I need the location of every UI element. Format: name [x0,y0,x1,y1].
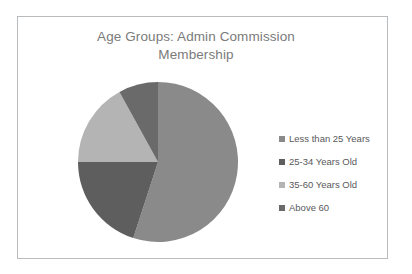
square-swatch-icon [279,182,285,188]
pie-chart [77,80,239,244]
square-swatch-icon [279,159,285,165]
legend-item-above-60[interactable]: Above 60 [279,196,389,219]
legend-item-label: Above 60 [289,202,329,213]
legend-item-25-34[interactable]: 25-34 Years Old [279,150,389,173]
legend-item-35-60[interactable]: 35-60 Years Old [279,173,389,196]
chart-legend: Less than 25 Years 25-34 Years Old 35-60… [279,127,389,219]
chart-title-line-2: Membership [46,46,346,64]
pie-slice-group [78,82,238,242]
square-swatch-icon [279,136,285,142]
legend-item-label: 25-34 Years Old [289,156,357,167]
chart-title: Age Groups: Admin Commission Membership [46,28,346,64]
legend-item-label: Less than 25 Years [289,133,370,144]
legend-item-less-than-25[interactable]: Less than 25 Years [279,127,389,150]
pie-chart-svg [77,80,239,244]
chart-card: Age Groups: Admin Commission Membership … [17,16,388,259]
legend-item-label: 35-60 Years Old [289,179,357,190]
square-swatch-icon [279,205,285,211]
chart-title-line-1: Age Groups: Admin Commission [46,28,346,46]
